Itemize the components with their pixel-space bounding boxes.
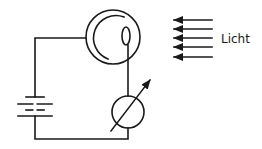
wire-left-top xyxy=(35,38,86,97)
photocell xyxy=(86,10,140,64)
light-label: Licht xyxy=(221,32,250,46)
photocell-circuit-diagram: Licht xyxy=(0,0,262,149)
photocell-anode xyxy=(122,27,130,45)
meter-adjust-arrow-icon xyxy=(111,80,150,131)
meter xyxy=(111,80,150,131)
light-rays xyxy=(174,20,212,57)
battery xyxy=(18,97,52,116)
photocell-cathode-arc xyxy=(94,16,124,59)
circuit-wires xyxy=(35,38,128,139)
